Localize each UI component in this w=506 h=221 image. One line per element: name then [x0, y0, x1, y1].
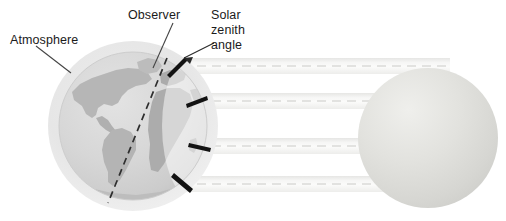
label-solar-zenith-angle: Solar zenith angle — [211, 8, 245, 52]
label-solar-zenith-angle-line-1: Solar — [211, 8, 241, 22]
label-atmosphere: Atmosphere — [10, 33, 78, 47]
solar-zenith-angle-leader-line — [184, 43, 214, 58]
solar-zenith-angle-diagram: Atmosphere Observer Solar zenith angle — [0, 0, 506, 221]
figure-canvas: Atmosphere Observer Solar zenith angle — [0, 0, 506, 221]
atmosphere-leader-line — [36, 46, 71, 73]
label-solar-zenith-angle-line-3: angle — [211, 38, 242, 52]
sun-disk — [358, 68, 498, 208]
label-observer: Observer — [128, 8, 180, 22]
label-solar-zenith-angle-line-2: zenith — [211, 23, 245, 37]
